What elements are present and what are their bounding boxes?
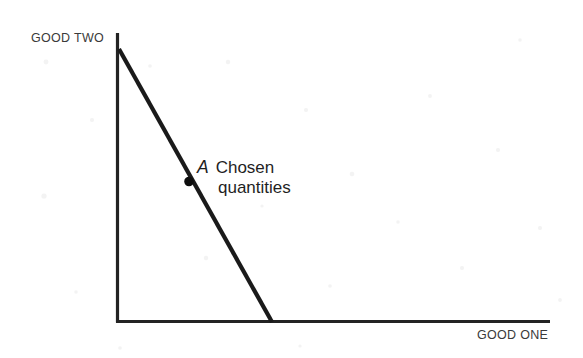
y-axis-label: GOOD TWO <box>31 31 104 46</box>
budget-constraint-figure <box>0 0 583 358</box>
chosen-quantities-annotation: AChosen quantities <box>197 157 291 198</box>
annotation-line-1: Chosen <box>216 158 275 177</box>
x-axis-label: GOOD ONE <box>477 328 548 343</box>
figure-canvas: GOOD TWO GOOD ONE AChosen quantities <box>0 0 583 358</box>
annotation-line-2: quantities <box>197 178 291 198</box>
point-a-marker <box>184 177 194 187</box>
point-a-label: A <box>197 157 216 177</box>
paper-texture <box>41 38 561 350</box>
